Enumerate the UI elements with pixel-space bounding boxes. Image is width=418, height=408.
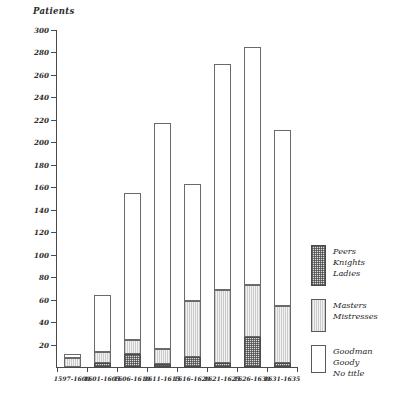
x-tick-label: 1631-1635 [264, 375, 300, 382]
x-tick-mark [57, 367, 58, 372]
y-axis-line [56, 30, 57, 368]
bar[interactable] [154, 123, 171, 367]
y-tick-label: 120 [34, 228, 49, 237]
bar-segment-masters [184, 301, 201, 357]
legend-swatch [311, 345, 326, 373]
y-tick-mark [51, 210, 57, 211]
bar-segment-peers [214, 363, 231, 367]
y-tick-label: 260 [34, 70, 49, 79]
y-tick-label: 220 [34, 115, 49, 124]
y-tick-label: 100 [34, 250, 49, 259]
y-tick-mark [51, 187, 57, 188]
bar-segment-masters [64, 358, 81, 367]
legend-swatch [311, 299, 326, 332]
y-tick-label: 160 [34, 183, 49, 192]
bar-segment-peers [184, 357, 201, 367]
bar-segment-no-title [184, 184, 201, 301]
x-tick-mark [207, 367, 208, 372]
y-tick-mark [51, 75, 57, 76]
y-axis-title: Patients [33, 6, 75, 16]
chart-legend: PeersKnightsLadiesMastersMistressesGoodm… [311, 245, 415, 391]
bar[interactable] [124, 193, 141, 367]
legend-label-line: Knights [333, 257, 365, 268]
legend-item[interactable]: PeersKnightsLadies [311, 245, 415, 286]
y-tick-mark [51, 120, 57, 121]
bar-segment-no-title [274, 130, 291, 306]
legend-label-line: No title [333, 368, 373, 379]
legend-label-line: Mistresses [333, 311, 378, 322]
bar-segment-masters [274, 306, 291, 362]
y-tick-label: 80 [39, 273, 49, 282]
bar[interactable] [244, 47, 261, 367]
y-tick-label: 200 [34, 138, 49, 147]
bar[interactable] [214, 64, 231, 367]
legend-label-line: Masters [333, 300, 378, 311]
y-tick-label: 40 [39, 318, 49, 327]
y-tick-mark [51, 345, 57, 346]
bar-segment-no-title [154, 123, 171, 349]
legend-item[interactable]: MastersMistresses [311, 299, 415, 332]
legend-label-line: Goody [333, 357, 373, 368]
bar-segment-masters [124, 340, 141, 353]
x-tick-mark [237, 367, 238, 372]
y-tick-label: 140 [34, 205, 49, 214]
y-tick-mark [51, 165, 57, 166]
bar[interactable] [274, 130, 291, 367]
legend-label: MastersMistresses [333, 299, 378, 322]
bar-segment-masters [94, 352, 111, 362]
y-tick-mark [51, 300, 57, 301]
y-tick-label: 60 [39, 295, 49, 304]
bar-segment-peers [154, 364, 171, 367]
bar-segment-no-title [124, 193, 141, 340]
bar-segment-no-title [94, 295, 111, 352]
bar-segment-no-title [214, 64, 231, 290]
x-tick-mark [117, 367, 118, 372]
y-tick-label: 300 [34, 26, 49, 35]
bar-segment-peers [244, 337, 261, 367]
y-tick-label: 180 [34, 160, 49, 169]
x-tick-mark [297, 367, 298, 372]
y-tick-mark [51, 322, 57, 323]
y-tick-mark [51, 277, 57, 278]
y-tick-mark [51, 52, 57, 53]
x-tick-mark [147, 367, 148, 372]
bar[interactable] [94, 295, 111, 367]
y-tick-mark [51, 142, 57, 143]
x-tick-mark [177, 367, 178, 372]
bar-segment-masters [214, 290, 231, 363]
legend-label-line: Peers [333, 246, 365, 257]
y-tick-mark [51, 30, 57, 31]
bar-segment-no-title [64, 354, 81, 358]
y-tick-mark [51, 255, 57, 256]
legend-label-line: Goodman [333, 346, 373, 357]
y-tick-mark [51, 232, 57, 233]
bar[interactable] [184, 184, 201, 367]
bar-segment-peers [274, 363, 291, 367]
x-tick-mark [87, 367, 88, 372]
y-tick-mark [51, 97, 57, 98]
bar-segment-no-title [244, 47, 261, 285]
bar-segment-peers [124, 354, 141, 367]
chart-container: Patients 3002802602402202001801601401201… [0, 0, 418, 408]
y-tick-label: 20 [39, 340, 49, 349]
bar-segment-masters [244, 285, 261, 337]
bar[interactable] [64, 354, 81, 367]
bar-segment-peers [94, 363, 111, 367]
plot-area: 3002802602402202001801601401201008060402… [57, 30, 297, 368]
y-tick-label: 240 [34, 93, 49, 102]
legend-label: PeersKnightsLadies [333, 245, 365, 278]
legend-label-line: Ladies [333, 268, 365, 279]
legend-item[interactable]: GoodmanGoodyNo title [311, 345, 415, 378]
legend-label: GoodmanGoodyNo title [333, 345, 373, 378]
y-tick-label: 280 [34, 48, 49, 57]
bar-segment-masters [154, 349, 171, 364]
legend-swatch [311, 245, 326, 286]
x-tick-mark [267, 367, 268, 372]
